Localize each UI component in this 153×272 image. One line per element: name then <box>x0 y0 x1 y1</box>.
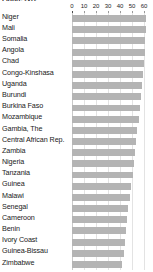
bar-row <box>72 82 150 89</box>
bar-cameroon <box>72 216 127 223</box>
chart-plot-area <box>72 13 150 270</box>
bar-central-african-rep <box>72 138 136 145</box>
bar-row <box>72 116 150 123</box>
bar-uganda <box>72 82 142 89</box>
category-label-central-african-rep: Central African Rep. <box>2 135 64 144</box>
bar-zambia <box>72 149 135 156</box>
x-tick-label-20: 20 <box>93 3 100 9</box>
x-tick-label-30: 30 <box>105 3 112 9</box>
category-label-niger: Niger <box>2 12 19 21</box>
bar-row <box>72 149 150 156</box>
bar-angola <box>72 49 145 56</box>
x-tick-label-40: 40 <box>117 3 124 9</box>
category-label-tanzania: Tanzania <box>2 168 30 177</box>
bar-row <box>72 26 150 33</box>
bar-somalia <box>72 37 145 44</box>
x-tick-label-50: 50 <box>129 3 136 9</box>
bar-row <box>72 239 150 246</box>
category-label-angola: Angola <box>2 45 24 54</box>
category-label-zambia: Zambia <box>2 146 25 155</box>
category-label-somalia: Somalia <box>2 34 27 43</box>
bar-zimbabwe <box>72 261 122 268</box>
bar-nigeria <box>72 160 134 167</box>
category-label-congo-kinshasa: Congo-Kinshasa <box>2 68 54 77</box>
category-label-guinea: Guinea <box>2 179 25 188</box>
figure-title: Figure 2-12 <box>2 0 37 1</box>
bar-gambia-the <box>72 127 137 134</box>
bar-senegal <box>72 205 128 212</box>
bar-row <box>72 127 150 134</box>
category-label-uganda: Uganda <box>2 79 27 88</box>
bar-row <box>72 261 150 268</box>
category-label-burkina-faso: Burkina Faso <box>2 101 43 110</box>
bar-row <box>72 216 150 223</box>
category-label-nigeria: Nigeria <box>2 157 24 166</box>
bar-row <box>72 172 150 179</box>
category-label-mozambique: Mozambique <box>2 112 42 121</box>
bar-row <box>72 105 150 112</box>
bar-series <box>72 13 150 270</box>
bar-guinea <box>72 183 131 190</box>
bar-chad <box>72 60 144 67</box>
bar-row <box>72 71 150 78</box>
category-label-burundi: Burundi <box>2 90 26 99</box>
category-label-guinea-bissau: Guinea-Bissau <box>2 246 48 255</box>
category-label-mali: Mali <box>2 23 15 32</box>
bar-row <box>72 205 150 212</box>
category-label-malawi: Malawi <box>2 191 24 200</box>
bar-row <box>72 15 150 22</box>
bar-malawi <box>72 194 130 201</box>
bar-row <box>72 93 150 100</box>
x-tick-label-10: 10 <box>81 3 88 9</box>
bar-niger <box>72 15 146 22</box>
bar-benin <box>72 227 126 234</box>
bar-row <box>72 250 150 257</box>
x-tick-label-0: 0 <box>70 3 73 9</box>
bar-row <box>72 227 150 234</box>
category-label-benin: Benin <box>2 224 20 233</box>
bar-row <box>72 194 150 201</box>
bar-mali <box>72 26 146 33</box>
bar-mozambique <box>72 116 139 123</box>
bar-row <box>72 160 150 167</box>
category-label-senegal: Senegal <box>2 202 28 211</box>
bar-row <box>72 49 150 56</box>
category-label-zimbabwe: Zimbabwe <box>2 258 34 267</box>
category-labels: NigerMaliSomaliaAngolaChadCongo-Kinshasa… <box>2 13 72 270</box>
category-label-chad: Chad <box>2 56 19 65</box>
bar-congo-kinshasa <box>72 71 143 78</box>
bar-guinea-bissau <box>72 250 124 257</box>
category-label-gambia-the: Gambia, The <box>2 124 42 133</box>
category-label-ivory-coast: Ivory Coast <box>2 235 37 244</box>
bar-row <box>72 60 150 67</box>
x-tick-label-60: 60 <box>141 3 148 9</box>
category-label-cameroon: Cameroon <box>2 213 35 222</box>
bar-burundi <box>72 93 141 100</box>
bar-burkina-faso <box>72 105 140 112</box>
bar-row <box>72 37 150 44</box>
bar-tanzania <box>72 172 133 179</box>
bar-row <box>72 138 150 145</box>
bar-row <box>72 183 150 190</box>
bar-ivory-coast <box>72 239 125 246</box>
